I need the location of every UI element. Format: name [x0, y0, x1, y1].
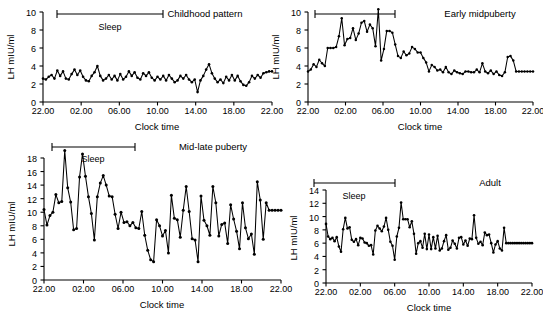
y-tick-label: 2: [314, 266, 319, 276]
x-tick-label: 22.00: [521, 287, 543, 297]
data-point: [377, 8, 380, 11]
data-point: [245, 85, 248, 88]
y-axis-title: LH mIU/ml: [270, 35, 281, 80]
data-point: [241, 201, 244, 204]
early-midpuberty-sleep-marker: [315, 10, 395, 18]
data-point: [76, 74, 79, 77]
x-tick-label: 22.00: [270, 284, 293, 294]
data-point: [185, 74, 188, 77]
data-point: [376, 225, 379, 228]
x-tick-label: 06.00: [112, 284, 135, 294]
data-point: [90, 212, 93, 215]
data-point: [460, 236, 463, 239]
data-point: [428, 233, 431, 236]
childhood-axes: [43, 12, 272, 102]
data-point: [225, 76, 228, 79]
childhood-x-ticks: 22.0002.0006.0010.0014.0018.0022.00: [32, 102, 284, 116]
sleep-label: Sleep: [342, 191, 365, 201]
data-point: [445, 234, 448, 237]
data-point: [471, 238, 474, 241]
x-tick-label: 02.00: [349, 287, 372, 297]
childhood-pattern-plot: Sleep Childhood pattern 0246810 22.0002.…: [0, 0, 283, 145]
data-point: [413, 233, 416, 236]
x-tick-label: 22.00: [315, 287, 338, 297]
data-point: [105, 184, 108, 187]
data-point: [50, 74, 53, 77]
data-point: [90, 75, 93, 78]
lh-markers-adult: [325, 201, 534, 261]
y-tick-label: 10: [309, 213, 319, 223]
data-point: [199, 79, 202, 82]
data-point: [521, 70, 524, 73]
data-point: [408, 226, 411, 229]
data-point: [239, 80, 242, 83]
data-point: [57, 201, 60, 204]
data-point: [369, 23, 372, 26]
data-point: [226, 242, 229, 245]
data-point: [108, 194, 111, 197]
data-point: [170, 194, 173, 197]
data-point: [348, 226, 351, 229]
data-point: [69, 201, 72, 204]
data-point: [478, 71, 481, 74]
data-point: [374, 45, 377, 48]
data-point: [247, 237, 250, 240]
data-point: [244, 226, 247, 229]
data-point: [512, 59, 515, 62]
data-point: [483, 231, 486, 234]
data-point: [128, 224, 131, 227]
x-tick-label: 10.00: [418, 287, 441, 297]
data-point: [242, 84, 245, 87]
data-point: [353, 241, 356, 244]
data-point: [383, 48, 386, 51]
data-point: [81, 152, 84, 155]
y-tick-label: 2: [296, 80, 301, 90]
data-point: [419, 240, 422, 243]
data-point: [357, 32, 360, 35]
data-point: [208, 234, 211, 237]
data-point: [393, 258, 396, 261]
data-point: [338, 245, 341, 248]
data-point: [191, 81, 194, 84]
data-point: [164, 229, 167, 232]
data-point: [59, 75, 62, 78]
y-tick-label: 12: [309, 199, 319, 209]
x-tick-label: 18.00: [486, 287, 509, 297]
data-point: [419, 51, 422, 54]
lh-pulsatility-figure: Sleep Childhood pattern 0246810 22.0002.…: [0, 0, 543, 324]
data-point: [67, 78, 70, 81]
data-point: [236, 75, 239, 78]
data-point: [459, 72, 462, 75]
data-point: [494, 243, 497, 246]
x-tick-label: 14.00: [191, 284, 214, 294]
data-point: [136, 76, 139, 79]
data-point: [357, 244, 360, 247]
data-point: [526, 70, 529, 73]
data-point: [504, 71, 507, 74]
lh-trace-mid-late-puberty: [44, 151, 281, 262]
data-point: [371, 27, 374, 30]
data-point: [265, 71, 268, 74]
data-point: [481, 244, 484, 247]
data-point: [42, 77, 45, 80]
x-tick-label: 18.00: [484, 106, 507, 116]
data-point: [131, 221, 134, 224]
data-point: [158, 224, 161, 227]
data-point: [394, 43, 397, 46]
data-point: [385, 217, 388, 220]
data-point: [179, 236, 182, 239]
data-point: [464, 70, 467, 73]
data-point: [425, 61, 428, 64]
data-point: [54, 193, 57, 196]
data-point: [152, 260, 155, 263]
data-point: [434, 247, 437, 250]
y-tick-label: 12: [27, 195, 37, 205]
data-point: [529, 70, 532, 73]
sleep-label: Sleep: [81, 154, 104, 164]
data-point: [188, 78, 191, 81]
data-point: [338, 35, 341, 38]
data-point: [153, 79, 156, 82]
y-tick-label: 8: [32, 222, 37, 232]
data-point: [388, 30, 391, 33]
childhood-sleep-marker: Sleep: [57, 10, 163, 32]
